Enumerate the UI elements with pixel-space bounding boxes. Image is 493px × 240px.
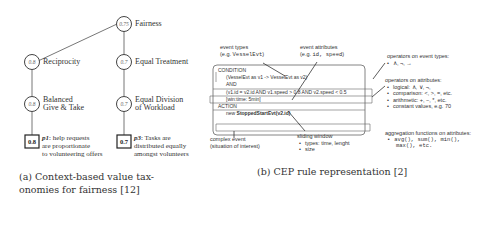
complex-event-annotation: complex event (situation of interest)	[210, 136, 260, 149]
event-attributes-eg-code: id, speed	[313, 51, 343, 58]
ops-event-types-item: ∧, ¬, →	[387, 60, 449, 67]
rule-and-label: AND	[226, 81, 237, 88]
rule-action-prefix: new	[226, 110, 237, 116]
rule-action-expr: new StoppedStartEvt(v2.id)	[226, 110, 290, 117]
event-types-eg-suffix: )	[262, 51, 264, 57]
caption-a-line1: (a) Context-based value tax-	[19, 171, 154, 182]
rule-action-label: ACTION	[218, 103, 237, 110]
caption-b: (b) CEP rule representation [2]	[257, 166, 407, 177]
ops-event-types-annotation: operators on event types: ∧, ¬, →	[387, 53, 449, 66]
event-types-eg-prefix: (e.g.	[220, 51, 233, 57]
event-attributes-eg-prefix: (e.g.	[300, 51, 313, 57]
ops-attributes-item: comparison: <, >, =, etc.	[385, 90, 452, 97]
event-attributes-annotation: event attributes (e.g. id, speed)	[300, 44, 344, 58]
ops-event-types-title: operators on event types:	[387, 53, 449, 60]
ops-attributes-item: constant values, e.g. 70	[385, 103, 452, 110]
event-attributes-eg-suffix: )	[342, 51, 344, 57]
rule-condition-label: CONDITION	[218, 67, 246, 74]
event-types-annotation: event types (e.g. VesselEvt)	[220, 44, 264, 58]
sliding-window-annotation: sliding window types: time, lenght size	[297, 133, 350, 153]
complex-event-line2: (situation of interest)	[210, 143, 260, 150]
sliding-window-item: size	[297, 146, 350, 153]
aggregation-line2: max(), etc.	[385, 143, 471, 150]
caption-a-line2: onomies for fairness [12]	[19, 184, 140, 195]
rule-window-expr: [win:time: 5min]	[226, 96, 261, 103]
rule-where-expr: (v1.id = v2.id AND v1.speed > 0.8 AND v2…	[226, 89, 347, 96]
rule-condition-expr: (VesselEvt as v1 -> VesselEvt as v2)	[226, 74, 307, 81]
event-types-eg-code: VesselEvt	[233, 51, 263, 58]
rule-action-event: StoppedStartEvt(v2.id)	[237, 110, 291, 116]
ops-attributes-annotation: operators on attributes: logical: ∧, ∨, …	[385, 77, 452, 110]
aggregation-annotation: aggregation functions on attributes: avg…	[385, 130, 471, 150]
